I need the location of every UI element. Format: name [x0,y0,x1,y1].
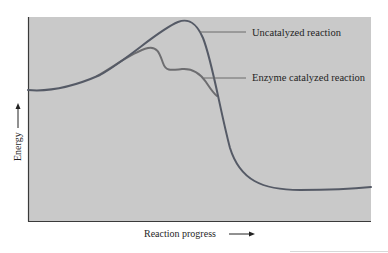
x-axis-label-group: Reaction progress [144,228,255,239]
uncatalyzed-label: Uncatalyzed reaction [252,27,342,38]
catalyzed-label: Enzyme catalyzed reaction [252,72,366,83]
up-arrow-icon [16,103,21,128]
x-axis-label: Reaction progress [144,228,216,239]
energy-profile-diagram: Uncatalyzed reaction Enzyme catalyzed re… [0,0,388,253]
y-axis-label: Energy [12,132,23,161]
y-axis-label-group: Energy [12,103,23,161]
right-arrow-icon [229,232,255,237]
